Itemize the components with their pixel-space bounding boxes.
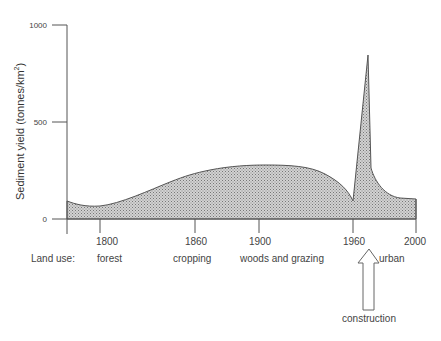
construction-label: construction xyxy=(342,313,396,324)
sediment-chart: 1000 500 0 Sediment yield (tonnes/km2) 1… xyxy=(0,0,441,341)
xtick-label-1900: 1900 xyxy=(249,236,272,247)
y-axis-label: Sediment yield (tonnes/km2) xyxy=(13,63,26,200)
xtick-label-1860: 1860 xyxy=(185,236,208,247)
land-use-woods: woods and grazing xyxy=(239,253,324,264)
ytick-label-500: 500 xyxy=(34,118,48,127)
xtick-label-1960: 1960 xyxy=(343,236,366,247)
land-use-cropping: cropping xyxy=(173,253,211,264)
ytick-label-1000: 1000 xyxy=(29,21,47,30)
ytick-label-0: 0 xyxy=(43,215,48,224)
construction-arrow-icon xyxy=(358,249,379,310)
xtick-label-2000: 2000 xyxy=(404,236,427,247)
land-use-label: Land use: xyxy=(31,253,75,264)
xtick-label-1800: 1800 xyxy=(96,236,119,247)
sediment-area xyxy=(67,55,416,219)
land-use-urban: urban xyxy=(379,253,405,264)
land-use-forest: forest xyxy=(97,253,122,264)
